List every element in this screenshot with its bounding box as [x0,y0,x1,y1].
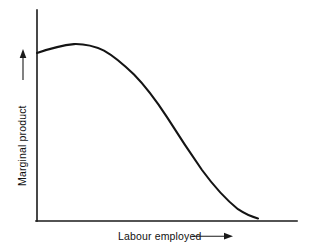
chart-background [0,0,310,252]
x-axis-label: Labour employed [118,230,201,242]
chart-svg: Marginal product Labour employed [0,0,310,252]
y-axis-label: Marginal product [16,105,28,186]
marginal-product-chart: Marginal product Labour employed [0,0,310,252]
